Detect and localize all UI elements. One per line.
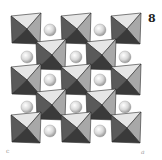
cation-sphere: [21, 101, 33, 113]
cation-sphere: [94, 125, 106, 137]
cation-sphere: [21, 51, 33, 63]
octahedra-lattice: [0, 0, 162, 160]
octahedron: [11, 13, 41, 44]
cation-sphere: [70, 101, 82, 113]
cation-sphere: [44, 125, 56, 137]
axis-label-c: c: [6, 147, 9, 154]
octahedron: [11, 112, 41, 143]
octahedron: [61, 112, 91, 143]
cation-sphere: [119, 51, 131, 63]
axis-label-a: a: [141, 148, 145, 155]
cation-sphere: [94, 24, 106, 36]
crystal-structure-diagram: 8 c a: [0, 0, 162, 160]
panel-label: 8: [148, 12, 156, 25]
cation-sphere: [94, 74, 106, 86]
octahedron: [11, 64, 41, 95]
cation-sphere: [70, 51, 82, 63]
cation-sphere: [44, 24, 56, 36]
octahedra-layer: [11, 13, 141, 143]
cation-sphere: [119, 101, 131, 113]
cation-sphere: [44, 74, 56, 86]
octahedron: [111, 112, 141, 143]
